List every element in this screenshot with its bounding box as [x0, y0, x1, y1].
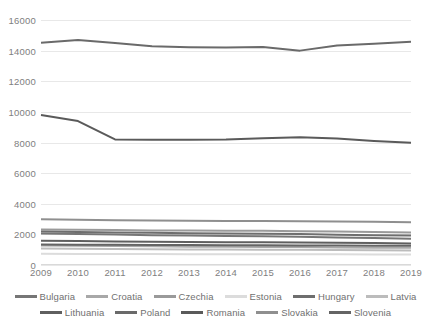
line-chart: 1600014000120001000080006000400020000 20… — [0, 0, 431, 331]
legend-swatch-icon — [154, 295, 176, 298]
x-tick-label: 2013 — [178, 267, 200, 278]
series-line — [41, 248, 411, 250]
y-tick-label: 14000 — [9, 45, 36, 56]
legend-label: Estonia — [250, 291, 282, 302]
legend-label: Bulgaria — [40, 291, 76, 302]
x-tick-label: 2019 — [400, 267, 422, 278]
series-line — [41, 219, 411, 222]
legend-swatch-icon — [256, 311, 278, 314]
series-line — [41, 254, 411, 255]
y-tick-label: 4000 — [14, 198, 36, 209]
plot-area — [41, 20, 411, 265]
x-tick-label: 2010 — [67, 267, 89, 278]
legend-swatch-icon — [115, 311, 137, 314]
x-tick-label: 2017 — [326, 267, 348, 278]
legend-swatch-icon — [366, 295, 388, 298]
legend-item-czechia[interactable]: Czechia — [154, 291, 214, 302]
legend-label: Poland — [140, 307, 170, 318]
legend-swatch-icon — [86, 295, 108, 298]
legend-label: Hungary — [318, 291, 355, 302]
x-tick-label: 2018 — [363, 267, 385, 278]
legend-label: Romania — [206, 307, 245, 318]
x-tick-label: 2011 — [104, 267, 125, 278]
legend-swatch-icon — [181, 311, 203, 314]
legend-label: Lithuania — [65, 307, 104, 318]
y-tick-label: 12000 — [9, 76, 36, 87]
legend-row-1: BulgariaCroatiaCzechiaEstoniaHungaryLatv… — [0, 288, 431, 304]
x-tick-label: 2016 — [289, 267, 311, 278]
y-tick-label: 10000 — [9, 106, 36, 117]
y-tick-label: 8000 — [14, 137, 36, 148]
x-tick-label: 2012 — [141, 267, 163, 278]
chart-legend: BulgariaCroatiaCzechiaEstoniaHungaryLatv… — [0, 288, 431, 320]
series-lines — [41, 20, 411, 265]
series-line — [41, 244, 411, 245]
x-tick-label: 2014 — [215, 267, 237, 278]
legend-label: Czechia — [179, 291, 214, 302]
legend-swatch-icon — [293, 295, 315, 298]
legend-row-2: LithuaniaPolandRomaniaSlovakiaSlovenia — [0, 304, 431, 320]
series-line — [41, 241, 411, 244]
legend-item-poland[interactable]: Poland — [115, 307, 170, 318]
legend-label: Croatia — [111, 291, 142, 302]
y-axis: 1600014000120001000080006000400020000 — [0, 0, 36, 285]
legend-item-croatia[interactable]: Croatia — [86, 291, 142, 302]
y-tick-label: 6000 — [14, 168, 36, 179]
legend-item-hungary[interactable]: Hungary — [293, 291, 355, 302]
legend-item-slovakia[interactable]: Slovakia — [256, 307, 318, 318]
y-tick-label: 2000 — [14, 229, 36, 240]
legend-item-bulgaria[interactable]: Bulgaria — [15, 291, 76, 302]
x-tick-label: 2009 — [30, 267, 52, 278]
legend-label: Slovakia — [281, 307, 318, 318]
legend-item-estonia[interactable]: Estonia — [225, 291, 282, 302]
legend-swatch-icon — [329, 311, 351, 314]
series-line — [41, 115, 411, 143]
legend-item-latvia[interactable]: Latvia — [366, 291, 417, 302]
legend-label: Latvia — [391, 291, 417, 302]
legend-swatch-icon — [15, 295, 37, 298]
legend-item-lithuania[interactable]: Lithuania — [40, 307, 104, 318]
y-tick-label: 16000 — [9, 15, 36, 26]
legend-item-romania[interactable]: Romania — [181, 307, 245, 318]
x-axis: 2009201020112012201320142015201620172018… — [41, 267, 411, 283]
legend-swatch-icon — [225, 295, 247, 298]
x-tick-label: 2015 — [252, 267, 274, 278]
legend-item-slovenia[interactable]: Slovenia — [329, 307, 391, 318]
x-axis-line — [41, 264, 411, 265]
series-line — [41, 40, 411, 51]
legend-swatch-icon — [40, 311, 62, 314]
gridline — [41, 265, 411, 266]
legend-label: Slovenia — [354, 307, 391, 318]
